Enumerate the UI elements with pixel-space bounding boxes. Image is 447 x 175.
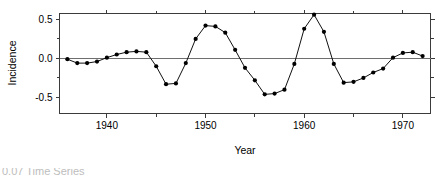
data-point: [381, 66, 385, 70]
plot-frame: [60, 14, 431, 114]
data-point: [115, 52, 119, 56]
data-point: [213, 24, 217, 28]
data-point: [174, 81, 178, 85]
figure-caption-strip: 0.07 Time Series: [0, 168, 447, 175]
data-point: [302, 27, 306, 31]
data-point: [194, 37, 198, 41]
incidence-data-points: [65, 13, 424, 97]
data-point: [65, 57, 69, 61]
x-axis-tick-labels: 1940195019601970: [96, 120, 415, 131]
data-point: [332, 62, 336, 66]
data-point: [292, 62, 296, 66]
y-tick-label: -0.5: [35, 92, 53, 103]
data-point: [164, 82, 168, 86]
x-axis-title: Year: [234, 144, 256, 156]
y-axis-tick-labels: -0.50.00.5: [35, 14, 53, 103]
data-point: [154, 64, 158, 68]
data-point: [144, 50, 148, 54]
data-point: [75, 61, 79, 65]
data-point: [312, 13, 316, 17]
data-point: [125, 50, 129, 54]
figure-caption: 0.07 Time Series: [2, 168, 85, 175]
x-tick-label: 1970: [392, 120, 415, 131]
data-point: [282, 88, 286, 92]
axis-ticks: [56, 10, 435, 118]
data-point: [401, 51, 405, 55]
data-point: [421, 54, 425, 58]
data-point: [233, 48, 237, 52]
incidence-year-line-chart: -0.50.00.5 1940195019601970 Incidence Ye…: [0, 0, 447, 175]
data-point: [391, 56, 395, 60]
chart-figure: -0.50.00.5 1940195019601970 Incidence Ye…: [0, 0, 447, 175]
y-tick-label: 0.0: [39, 53, 53, 64]
data-point: [253, 78, 257, 82]
y-tick-label: 0.5: [39, 14, 53, 25]
y-axis-title: Incidence: [6, 40, 18, 85]
data-point: [411, 50, 415, 54]
data-point: [203, 24, 207, 28]
x-tick-label: 1960: [293, 120, 316, 131]
x-tick-label: 1950: [194, 120, 217, 131]
data-point: [243, 66, 247, 70]
data-point: [95, 59, 99, 63]
data-point: [223, 31, 227, 35]
data-point: [184, 61, 188, 65]
data-point: [263, 92, 267, 96]
data-point: [273, 91, 277, 95]
data-point: [361, 76, 365, 80]
data-point: [85, 61, 89, 65]
data-point: [105, 56, 109, 60]
x-tick-label: 1940: [96, 120, 119, 131]
data-point: [134, 49, 138, 53]
data-point: [342, 81, 346, 85]
data-point: [351, 80, 355, 84]
data-point: [322, 30, 326, 34]
incidence-series-line: [67, 15, 422, 95]
data-point: [371, 70, 375, 74]
